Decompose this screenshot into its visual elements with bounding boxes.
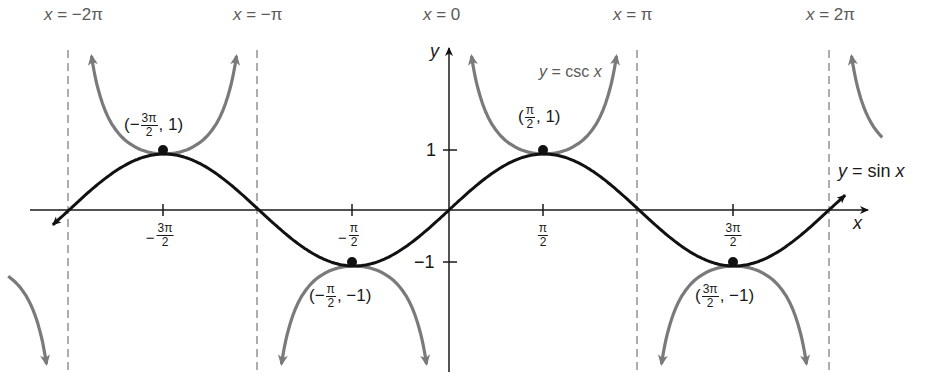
asymptote-label-neg-pi: x = −π [233, 6, 283, 23]
point-label-3pi-2: (3π2, −1) [695, 283, 754, 309]
csc-label: y = csc x [539, 64, 602, 80]
chart-canvas [0, 0, 946, 382]
y-axis-label: y [430, 42, 439, 60]
point-label-neg-3pi-2: (−3π2, 1) [124, 112, 183, 138]
point-pi-2 [538, 145, 548, 155]
x-tick-neg-pi-2: −π2 [348, 222, 360, 248]
point-label-pi-2: (π2, 1) [518, 104, 561, 130]
point-label-neg-pi-2: (−π2, −1) [309, 283, 371, 309]
y-tick-neg1: −1 [414, 253, 435, 271]
point-neg-pi-2 [347, 257, 357, 267]
asymptote-label-pi: x = π [613, 6, 653, 23]
asymptote-label-zero: x = 0 [423, 6, 460, 23]
x-axis-label: x [853, 214, 862, 232]
point-neg-3pi-2 [158, 145, 168, 155]
x-tick-pi-2: π2 [537, 222, 549, 248]
x-tick-3pi-2: 3π2 [724, 222, 743, 248]
x-tick-neg-3pi-2: −3π2 [156, 222, 175, 248]
point-3pi-2 [728, 257, 738, 267]
asymptote-label-neg-2pi: x = −2π [44, 6, 103, 23]
sin-label: y = sin x [838, 162, 905, 180]
asymptote-label-2pi: x = 2π [806, 6, 855, 23]
key-points [158, 145, 738, 267]
y-tick-1: 1 [426, 141, 436, 159]
